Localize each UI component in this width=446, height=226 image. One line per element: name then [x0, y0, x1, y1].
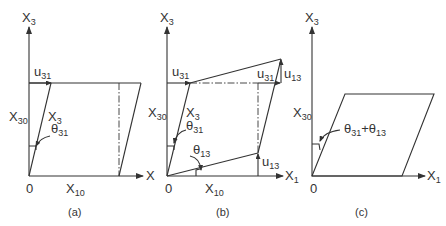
sheared-right-edge — [119, 83, 141, 176]
x30-label: X30 — [293, 105, 312, 122]
theta-sum-label: θ31+θ13 — [344, 121, 386, 138]
origin-label: 0 — [165, 181, 172, 196]
angle-mark-31 — [167, 146, 174, 150]
u31-label-right: u31 — [257, 66, 274, 83]
x10-label: X10 — [205, 181, 224, 198]
shear-deformation-diagram: X3 X 0 u31 X30 X3 θ31 X10 (a) X3 X1 0 u3… — [0, 0, 446, 226]
caption-c: (c) — [355, 206, 368, 218]
panel-b: X3 X1 0 u31 u31 u13 u13 X30 X3 θ31 θ13 X… — [148, 10, 301, 218]
u13-label-top: u13 — [284, 66, 301, 83]
axis-label-x1: X1 — [285, 168, 299, 185]
u31-label-left: u31 — [172, 64, 189, 81]
sheared-left-edge — [29, 83, 51, 176]
x30-label: X30 — [9, 109, 28, 126]
axis-label-x3: X3 — [160, 10, 174, 27]
sheared-bottom-edge — [167, 153, 258, 176]
panel-a: X3 X 0 u31 X30 X3 θ31 X10 (a) — [9, 10, 155, 218]
axis-label-x1: X — [146, 168, 155, 183]
u13-label-bottom: u13 — [262, 154, 279, 171]
u31-label: u31 — [34, 64, 51, 81]
panel-c: X3 X1 0 X30 θ31+θ13 (c) — [293, 10, 441, 218]
axis-label-x3: X3 — [305, 10, 319, 27]
origin-label: 0 — [310, 181, 317, 196]
axis-label-x1: X1 — [427, 168, 441, 185]
axis-label-x3: X3 — [22, 10, 36, 27]
x30-label: X30 — [148, 105, 167, 122]
theta13-label: θ13 — [193, 142, 210, 159]
angle-mark-13 — [196, 169, 200, 176]
angle-mark — [312, 144, 320, 150]
origin-label: 0 — [26, 181, 33, 196]
x10-label: X10 — [66, 181, 85, 198]
caption-a: (a) — [68, 206, 81, 218]
caption-b: (b) — [216, 206, 229, 218]
